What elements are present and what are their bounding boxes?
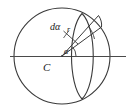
label-differential-angle: dα xyxy=(50,22,60,32)
dalpha-leader-line xyxy=(64,31,79,44)
label-angle-alpha: α xyxy=(64,48,68,56)
label-centre-c: C xyxy=(43,62,50,73)
label-radius: r xyxy=(67,26,70,34)
geometry-figure: dα r α C xyxy=(0,0,129,110)
centre-point xyxy=(61,55,63,57)
